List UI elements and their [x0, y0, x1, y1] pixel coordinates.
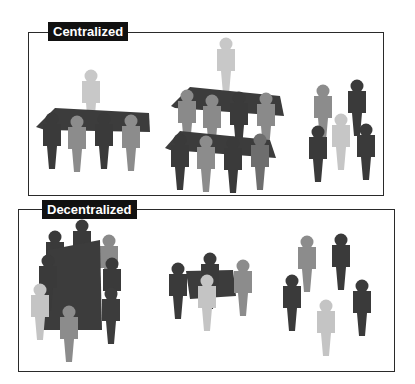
person-icon [353, 280, 371, 337]
centralized-group-single-level [36, 70, 150, 173]
person-icon [234, 260, 252, 317]
person-icon [169, 263, 187, 320]
decentralized-group-small-cluster [169, 253, 252, 332]
person-icon [102, 288, 120, 345]
person-icon [298, 236, 316, 293]
centralized-group-individuals [309, 80, 375, 183]
decentralized-group-large-cluster [31, 220, 121, 363]
person-icon [332, 114, 350, 171]
person-icon [332, 234, 350, 291]
people-illustration [0, 0, 415, 384]
leader-person-icon [217, 38, 235, 95]
person-icon [283, 275, 301, 332]
decentralized-group-individuals [283, 234, 371, 357]
person-icon [317, 300, 335, 357]
centralized-group-multi-level [165, 38, 284, 194]
